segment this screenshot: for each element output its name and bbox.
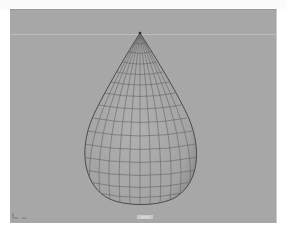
camera-label: persp bbox=[137, 215, 153, 219]
menu-bar bbox=[0, 0, 286, 9]
apex-vertex[interactable] bbox=[139, 32, 142, 35]
3d-viewport[interactable]: persp bbox=[10, 9, 277, 223]
modeling-app: persp bbox=[0, 0, 286, 231]
teardrop-mesh[interactable] bbox=[10, 10, 277, 223]
axis-indicator-icon bbox=[12, 212, 32, 220]
teardrop-surface bbox=[85, 33, 197, 205]
